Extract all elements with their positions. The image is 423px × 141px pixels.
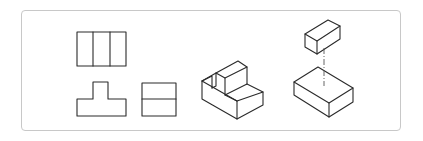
side-view <box>142 83 176 116</box>
edge-line <box>225 84 247 95</box>
t-shaped-view <box>77 82 126 116</box>
front-view <box>77 32 126 66</box>
edge-line <box>216 67 247 78</box>
isometric-large-box <box>294 67 353 117</box>
isometric-stepped-block <box>202 61 263 119</box>
figure-canvas <box>0 0 423 141</box>
edge-line <box>77 82 126 116</box>
edge-line <box>202 61 263 119</box>
technical-drawing <box>0 0 423 141</box>
isometric-small-box <box>305 20 340 54</box>
edge-line <box>305 20 340 41</box>
edge-line <box>77 32 126 66</box>
edge-line <box>294 67 353 103</box>
